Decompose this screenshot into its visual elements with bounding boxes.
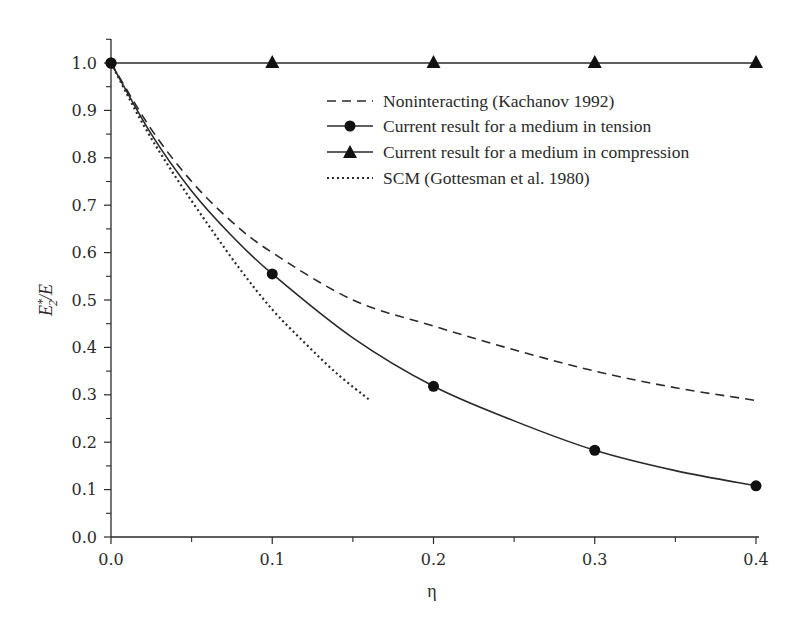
- x-tick-label: 0.4: [743, 550, 768, 569]
- circle-marker: [428, 381, 439, 392]
- series-line: [111, 63, 756, 400]
- triangle-marker: [588, 55, 602, 68]
- y-tick-label: 0.2: [72, 433, 97, 452]
- x-tick-label: 0.3: [582, 550, 607, 569]
- triangle-marker: [749, 55, 763, 68]
- series-0: [111, 63, 756, 400]
- y-tick-label: 0.5: [72, 291, 97, 310]
- y-label-rest: /E: [36, 284, 56, 301]
- legend-item: SCM (Gottesman et al. 1980): [327, 168, 590, 188]
- x-tick-label: 0.2: [421, 550, 446, 569]
- circle-marker: [751, 480, 762, 491]
- y-tick-label: 0.7: [72, 196, 97, 215]
- legend-item: Current result for a medium in compressi…: [327, 142, 689, 162]
- series-3: [111, 63, 369, 400]
- y-tick-label: 0.8: [72, 148, 97, 167]
- y-tick-label: 0.9: [72, 101, 97, 120]
- chart: 0.00.10.20.30.40.00.10.20.30.40.50.60.70…: [0, 0, 803, 624]
- x-axis-label: η: [427, 581, 436, 601]
- circle-marker: [106, 58, 117, 69]
- circle-marker: [267, 268, 278, 279]
- triangle-marker: [265, 55, 279, 68]
- circle-marker: [589, 445, 600, 456]
- y-tick-label: 0.4: [72, 338, 97, 357]
- series-2: [111, 55, 763, 68]
- legend-label: Current result for a medium in compressi…: [383, 142, 689, 162]
- y-tick-label: 0.0: [72, 528, 97, 547]
- series-line: [111, 63, 369, 400]
- circle-marker: [345, 121, 356, 132]
- legend-label: SCM (Gottesman et al. 1980): [383, 168, 590, 188]
- triangle-marker: [427, 55, 441, 68]
- legend-label: Noninteracting (Kachanov 1992): [383, 91, 614, 111]
- y-tick-label: 0.3: [72, 385, 97, 404]
- y-tick-label: 1.0: [72, 54, 97, 73]
- x-tick-label: 0.0: [98, 550, 123, 569]
- y-tick-label: 0.1: [72, 480, 97, 499]
- x-tick-label: 0.1: [260, 550, 285, 569]
- legend-item: Noninteracting (Kachanov 1992): [327, 91, 614, 111]
- y-axis-label: E*2/E: [35, 284, 60, 317]
- legend: Noninteracting (Kachanov 1992)Current re…: [327, 91, 689, 188]
- legend-label: Current result for a medium in tension: [383, 116, 652, 136]
- y-tick-label: 0.6: [72, 243, 97, 262]
- legend-item: Current result for a medium in tension: [327, 116, 652, 136]
